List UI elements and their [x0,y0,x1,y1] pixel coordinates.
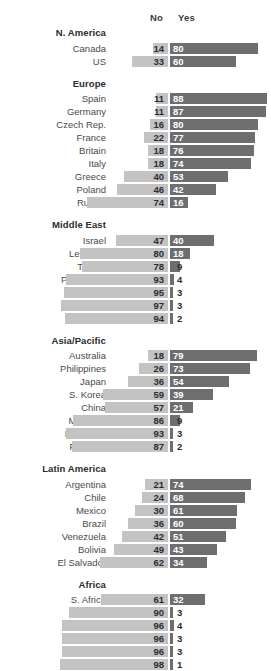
group-title: Europe [0,78,106,89]
bar-track: 5939 [0,389,271,400]
bar-track: 3660 [0,518,271,529]
bar-track: 1480 [0,43,271,54]
value-no: 47 [153,235,164,246]
value-no: 96 [153,633,164,644]
bar-track: 963 [0,633,271,644]
group-title: N. America [0,27,106,38]
value-no: 36 [153,518,164,529]
value-no: 40 [153,171,164,182]
column-header-yes: Yes [178,12,195,23]
value-yes: 80 [173,43,184,54]
bar-track: 4740 [0,235,271,246]
bar-track: 981 [0,659,271,670]
group-title: Middle East [0,219,106,230]
chart-row: China5721 [0,401,271,414]
value-no: 46 [153,184,164,195]
chart-row: Mexico3061 [0,504,271,517]
bar-track: 7416 [0,197,271,208]
chart-row: Kenya903 [0,606,271,619]
chart-row: Malaysia869 [0,414,271,427]
chart-row: Chile2468 [0,491,271,504]
chart-row: Greece4053 [0,170,271,183]
chart-row: Britain1876 [0,144,271,157]
value-no: 93 [153,274,164,285]
value-yes: 9 [177,415,182,426]
group-title: Asia/Pacific [0,335,106,346]
value-yes: 16 [173,197,184,208]
value-no: 30 [153,505,164,516]
value-no: 24 [153,492,164,503]
value-no: 97 [153,300,164,311]
value-no: 42 [153,531,164,542]
value-no: 62 [153,557,164,568]
bar-track: 3654 [0,376,271,387]
chart-row: Italy1874 [0,157,271,170]
bar-yes [170,659,173,670]
bar-track: 6132 [0,594,271,605]
value-yes: 21 [173,402,184,413]
bar-track: 1680 [0,119,271,130]
bar-track: 942 [0,313,271,324]
chart-row: Ghana963 [0,632,271,645]
chart-row: Poland4642 [0,183,271,196]
bar-yes [170,93,267,104]
chart-row: France2277 [0,131,271,144]
chart-row: Israel4740 [0,234,271,247]
value-no: 49 [153,544,164,555]
group-title: Latin America [0,463,106,474]
value-yes: 40 [173,235,184,246]
value-no: 16 [153,119,164,130]
value-no: 14 [153,43,164,54]
group-title: Africa [0,579,106,590]
value-no: 26 [153,363,164,374]
bar-no [62,646,168,657]
bar-track: 8018 [0,248,271,259]
chart-row: Germany1187 [0,105,271,118]
value-yes: 1 [177,659,182,670]
value-yes: 53 [173,171,184,182]
value-no: 93 [153,428,164,439]
chart-row: El Salvador6234 [0,556,271,569]
bar-yes [170,607,173,618]
chart-row: Lebanon8018 [0,247,271,260]
chart-row: US3360 [0,55,271,68]
bar-track: 4251 [0,531,271,542]
bar-no [64,287,169,298]
bar-no [62,633,168,644]
bar-no [60,659,168,670]
chart-row: Uganda964 [0,619,271,632]
bar-track: 1879 [0,350,271,361]
chart-row: Argentina2174 [0,478,271,491]
bar-track: 4642 [0,184,271,195]
bar-track: 4943 [0,544,271,555]
value-yes: 3 [177,428,182,439]
chart-row: S. Africa6132 [0,593,271,606]
value-yes: 87 [173,106,184,117]
value-yes: 76 [173,145,184,156]
value-yes: 32 [173,594,184,605]
bar-track: 903 [0,607,271,618]
value-no: 11 [154,106,164,117]
bar-track: 963 [0,646,271,657]
bar-yes [170,620,174,631]
value-no: 80 [153,248,164,259]
chart-row: Russia7416 [0,196,271,209]
value-yes: 2 [177,441,182,452]
value-yes: 79 [173,350,184,361]
chart-row: Jordan973 [0,299,271,312]
chart-row: Bolivia4943 [0,543,271,556]
value-no: 18 [153,350,164,361]
chart-row: Tunisia942 [0,312,271,325]
column-header-no: No [150,12,163,23]
value-no: 94 [153,313,164,324]
value-yes: 3 [177,633,182,644]
bar-track: 2277 [0,132,271,143]
value-yes: 39 [173,389,184,400]
value-yes: 60 [173,518,184,529]
bar-yes [170,633,173,644]
chart-row: Brazil3660 [0,517,271,530]
bar-track: 3061 [0,505,271,516]
bar-yes [170,428,173,439]
bar-yes [170,300,173,311]
